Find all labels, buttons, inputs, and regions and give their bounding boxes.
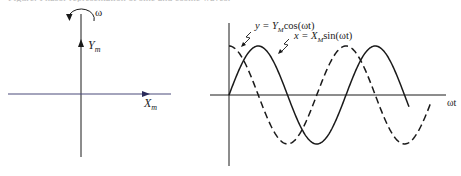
ym-label: Ym <box>88 38 101 54</box>
xm-label: Xm <box>143 96 157 112</box>
omega-label: ω <box>95 6 102 18</box>
cos-leader-mark <box>244 32 251 44</box>
sin-equation-label: x = XMsin(ωt) <box>293 30 353 44</box>
phasor-diagram: ω Ym Xm <box>8 6 171 157</box>
rotation-arrow-icon <box>70 9 94 21</box>
y-axis-arrow-icon <box>78 39 84 47</box>
sin-leader-arrow-icon <box>278 49 283 54</box>
wave-plot: ωt y = YMcos(ωt) x = XMsin(ωt) <box>210 20 457 166</box>
sin-leader-mark <box>282 39 289 51</box>
omega-t-axis-label: ωt <box>447 97 457 108</box>
figure-canvas: ω Ym Xm ωt y = YMcos(ωt) x = XMsin(ωt) <box>0 0 461 176</box>
rotation-arrowhead-icon <box>66 14 73 21</box>
